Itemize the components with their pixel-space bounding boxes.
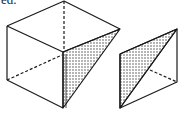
geometry-diagram <box>0 0 185 114</box>
wedge-figure <box>120 29 177 108</box>
hidden-edge <box>7 55 62 80</box>
cube-figure <box>7 1 120 108</box>
hidden-edge <box>150 70 177 82</box>
top-face-edges <box>7 1 120 29</box>
